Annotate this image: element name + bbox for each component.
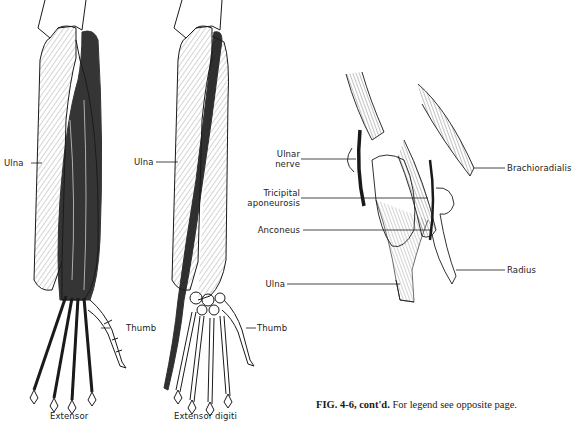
elbow-anatomy-drawing	[346, 72, 474, 302]
label-ulnar-nerve-1: Ulnar	[260, 149, 300, 159]
label-brachioradialis: Brachioradialis	[507, 163, 571, 173]
extensor-forearm-drawing	[30, 0, 126, 414]
label-ulna-elbow: Ulna	[240, 279, 285, 289]
label-ulnar-nerve-2: nerve	[260, 159, 300, 169]
figure-caption-text: For legend see opposite page.	[392, 399, 517, 410]
panel-title-extensor-digiti: Extensor digiti	[174, 411, 237, 421]
extensor-digiti-forearm-drawing	[164, 0, 254, 416]
label-anconeus: Anconeus	[240, 225, 300, 235]
label-thumb-extensor-digiti: Thumb	[257, 323, 287, 333]
label-ulna-extensor-digiti: Ulna	[134, 157, 154, 167]
label-tricipital-aponeurosis-1: Tricipital	[240, 188, 300, 198]
figure-caption: FIG. 4-6, cont'd. For legend see opposit…	[316, 399, 517, 410]
label-radius: Radius	[507, 265, 536, 275]
label-ulna-extensor: Ulna	[4, 158, 24, 168]
panel-title-extensor: Extensor	[50, 411, 88, 421]
figure-number: FIG. 4-6, cont'd.	[316, 399, 390, 410]
label-tricipital-aponeurosis-2: aponeurosis	[240, 198, 300, 208]
anatomy-illustration	[0, 0, 577, 423]
label-thumb-extensor: Thumb	[126, 323, 156, 333]
